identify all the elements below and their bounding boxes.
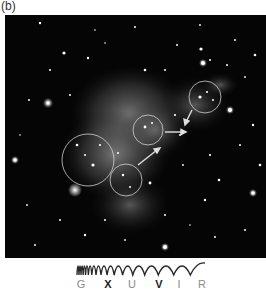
band-g: G [77,277,86,291]
panel-label: (b) [1,0,16,13]
wavelength-spectrum-icon [75,261,209,277]
diffuse-glow [60,65,238,235]
band-u: U [128,277,136,291]
galaxy-cluster-image [5,15,266,258]
band-v: V [155,277,162,291]
band-r: R [198,277,206,291]
band-x: X [104,277,111,291]
cluster-image-svg [5,15,266,258]
wavelength-bands: G X U V I R [75,277,209,291]
band-i: I [177,277,180,291]
